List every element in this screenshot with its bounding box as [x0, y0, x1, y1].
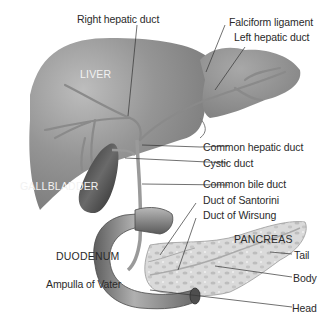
anatomy-illustration	[0, 0, 328, 324]
organ-label-duodenum: DUODENUM	[56, 250, 119, 262]
label-duct-of-wirsung: Duct of Wirsung	[203, 209, 276, 221]
label-cystic-duct: Cystic duct	[203, 157, 253, 169]
organ-label-gallbladder: GALLBLADDER	[20, 180, 99, 192]
label-common-hepatic-duct: Common hepatic duct	[203, 141, 303, 153]
label-ampulla-of-vater: Ampulla of Vater	[46, 278, 121, 290]
label-falciform-ligament: Falciform ligament	[229, 16, 313, 28]
label-common-bile-duct: Common bile duct	[203, 178, 286, 190]
liver-left-lobe	[200, 48, 300, 118]
organ-label-pancreas: PANCREAS	[234, 233, 293, 245]
organ-label-liver: LIVER	[80, 68, 111, 80]
common-bile-duct	[128, 140, 141, 270]
label-right-hepatic-duct: Right hepatic duct	[77, 13, 159, 25]
label-left-hepatic-duct: Left hepatic duct	[234, 31, 309, 43]
label-body: Body	[293, 272, 317, 284]
label-head: Head	[292, 302, 317, 314]
anatomy-diagram: LIVER GALLBLADDER DUODENUM PANCREAS Righ…	[0, 0, 328, 324]
label-duct-of-santorini: Duct of Santorini	[203, 194, 279, 206]
label-tail: Tail	[294, 249, 309, 261]
